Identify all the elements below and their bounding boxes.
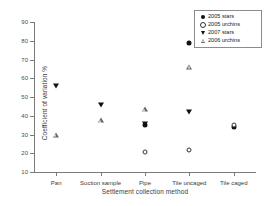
legend-item[interactable]: 2005 stars	[198, 13, 259, 21]
open-circle-icon	[198, 22, 208, 28]
y-tick	[30, 41, 34, 42]
filled-triangle-down-icon	[198, 31, 208, 35]
filled-circle-icon	[198, 15, 208, 19]
legend-item[interactable]: 2007 stars	[198, 29, 259, 37]
data-point	[53, 83, 59, 88]
y-tick	[30, 22, 34, 23]
x-tick-label: Suction sample	[80, 180, 121, 186]
data-point	[142, 122, 148, 127]
scatter-chart: Coefficient of variation % Settlement co…	[0, 0, 266, 206]
x-axis-title: Settlement collection method	[34, 188, 256, 195]
y-tick-label: 90	[21, 19, 28, 25]
y-tick	[30, 135, 34, 136]
y-tick	[30, 60, 34, 61]
legend-item-label: 2005 urchins	[208, 22, 240, 28]
y-tick	[30, 153, 34, 154]
x-tick	[56, 172, 57, 176]
data-point	[186, 110, 192, 115]
data-point	[98, 118, 104, 123]
x-tick	[145, 172, 146, 176]
y-tick-label: 80	[21, 38, 28, 44]
y-axis-line	[34, 22, 35, 172]
y-tick-label: 60	[21, 75, 28, 81]
open-triangle-up-icon	[198, 39, 208, 43]
x-tick-label: Pan	[51, 180, 62, 186]
y-tick	[30, 116, 34, 117]
legend-item-label: 2006 urchins	[208, 38, 240, 44]
y-tick-label: 50	[21, 94, 28, 100]
y-tick	[30, 172, 34, 173]
data-point	[142, 107, 148, 112]
legend-item[interactable]: 2006 urchins	[198, 37, 259, 45]
y-tick	[30, 78, 34, 79]
data-point	[186, 65, 192, 70]
x-tick-label: Tile caged	[220, 180, 247, 186]
data-point	[98, 102, 104, 107]
y-tick	[30, 97, 34, 98]
legend-item-label: 2007 stars	[208, 30, 234, 36]
y-tick-label: 40	[21, 113, 28, 119]
y-tick-label: 20	[21, 150, 28, 156]
data-point	[187, 40, 192, 45]
x-tick-label: Pipe	[139, 180, 151, 186]
x-tick	[234, 172, 235, 176]
legend-item-label: 2005 stars	[208, 14, 234, 20]
data-point	[187, 148, 192, 153]
x-tick	[101, 172, 102, 176]
data-point	[231, 123, 236, 128]
y-tick-label: 30	[21, 132, 28, 138]
x-tick-label: Tile uncaged	[172, 180, 206, 186]
data-point	[143, 150, 148, 155]
x-tick	[189, 172, 190, 176]
legend-item[interactable]: 2005 urchins	[198, 21, 259, 29]
y-tick-label: 70	[21, 57, 28, 63]
data-point	[53, 132, 59, 137]
chart-legend: 2005 stars2005 urchins2007 stars2006 urc…	[194, 10, 262, 48]
y-tick-label: 10	[21, 169, 28, 175]
